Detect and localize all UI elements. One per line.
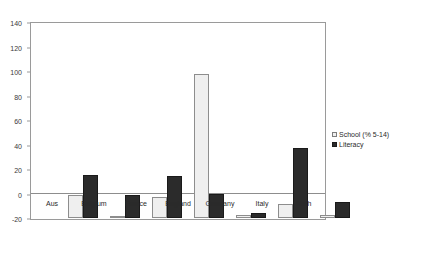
x-axis-tick-label: Germany	[206, 200, 235, 207]
legend-item: School (% 5-14)	[332, 130, 426, 138]
bar-belgium-school	[110, 216, 125, 218]
y-axis-tick-label: 140	[10, 20, 22, 27]
x-axis-tick-label: England	[165, 200, 191, 207]
legend-item-label: School (% 5-14)	[339, 131, 389, 138]
bar-england-school	[194, 74, 209, 217]
y-axis-tick-label: -20	[12, 216, 22, 223]
x-axis-tick-label: Italy	[256, 200, 269, 207]
x-axis-tick-label: France	[125, 200, 147, 207]
legend-item-label: Literacy	[339, 141, 364, 148]
bar-germany-school	[236, 215, 251, 217]
x-axis-tick-label: Aus	[46, 200, 58, 207]
legend-item: Literacy	[332, 140, 426, 148]
x-axis-tick-label: Neth	[297, 200, 312, 207]
bar-neth-literacy	[335, 202, 350, 218]
bar-neth-school	[320, 215, 335, 217]
y-axis-tick-label: 120	[10, 44, 22, 51]
plot-area	[30, 22, 326, 220]
y-axis-tick-label: 60	[14, 118, 22, 125]
y-axis: 140 120 100 80 60 40 20 0 -20	[0, 22, 27, 220]
y-axis-tick-label: 100	[10, 69, 22, 76]
y-axis-tick-label: 0	[18, 191, 22, 198]
y-axis-tick-label: 80	[14, 93, 22, 100]
x-axis-tick-label: Belgium	[81, 200, 106, 207]
legend-swatch-school-icon	[332, 132, 337, 137]
y-axis-tick-label: 20	[14, 167, 22, 174]
chart-legend: School (% 5-14) Literacy	[332, 130, 426, 150]
x-axis: AusBelgiumFranceEnglandGermanyItalyNeth	[31, 200, 325, 214]
chart-container: 140 120 100 80 60 40 20 0 -20 AusBelgium…	[0, 0, 430, 270]
legend-swatch-literacy-icon	[332, 142, 337, 147]
y-axis-tick-label: 40	[14, 142, 22, 149]
